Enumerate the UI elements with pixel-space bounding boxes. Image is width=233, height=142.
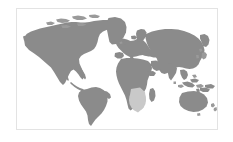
world-map-graphic[interactable] — [17, 9, 217, 129]
world-map-card[interactable] — [16, 8, 218, 130]
screenshot-root — [0, 0, 233, 142]
